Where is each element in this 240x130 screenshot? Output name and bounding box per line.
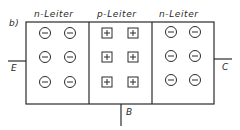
terminal-label-emitter: E xyxy=(11,64,17,73)
minus-circle-icon xyxy=(65,28,76,39)
plus-square-icon xyxy=(102,28,112,38)
minus-circle-icon xyxy=(65,77,76,88)
minus-circle-icon xyxy=(65,52,76,63)
terminal-label-collector: C xyxy=(222,63,229,72)
diagram-graphics xyxy=(0,0,240,130)
region-label-n-right: n-Leiter xyxy=(159,10,199,19)
npn-transistor-diagram: b) n-Leiter p-Leiter n-Leiter E C B xyxy=(0,0,240,130)
plus-square-icon xyxy=(128,77,138,87)
minus-circle-icon xyxy=(190,27,201,38)
minus-circle-icon xyxy=(166,75,177,86)
plus-square-icon xyxy=(128,28,138,38)
minus-circle-icon xyxy=(40,28,51,39)
plus-square-icon xyxy=(102,77,112,87)
p-region-carriers xyxy=(102,28,138,87)
minus-circle-icon xyxy=(190,75,201,86)
minus-circle-icon xyxy=(166,51,177,62)
region-label-p: p-Leiter xyxy=(97,10,137,19)
minus-circle-icon xyxy=(40,77,51,88)
figure-label: b) xyxy=(9,19,19,28)
terminal-label-base: B xyxy=(126,108,133,117)
region-label-n-left: n-Leiter xyxy=(34,10,74,19)
plus-square-icon xyxy=(128,52,138,62)
n-region-left-carriers xyxy=(40,28,76,88)
minus-circle-icon xyxy=(190,51,201,62)
minus-circle-icon xyxy=(40,52,51,63)
plus-square-icon xyxy=(102,52,112,62)
minus-circle-icon xyxy=(166,27,177,38)
semiconductor-outline xyxy=(26,22,214,104)
n-region-right-carriers xyxy=(166,27,201,86)
